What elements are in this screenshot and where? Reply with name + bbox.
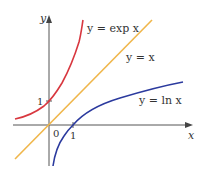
identity-curve-label: y = x bbox=[125, 51, 155, 64]
y-axis-arrow-icon bbox=[46, 15, 52, 23]
curve-identity bbox=[15, 20, 152, 159]
x-axis-arrow-icon bbox=[185, 122, 193, 128]
x-tick-label: 1 bbox=[70, 130, 76, 141]
x-axis-label: x bbox=[188, 129, 195, 142]
ln-curve-label: y = ln x bbox=[138, 94, 183, 107]
y-axis-label: y bbox=[39, 12, 47, 25]
y-tick-label: 1 bbox=[37, 96, 43, 107]
origin-label: 0 bbox=[53, 128, 59, 139]
exp-curve-label: y = exp x bbox=[86, 22, 140, 35]
function-graph: y x 0 1 1 y = exp x y = x y = ln x bbox=[0, 0, 205, 180]
